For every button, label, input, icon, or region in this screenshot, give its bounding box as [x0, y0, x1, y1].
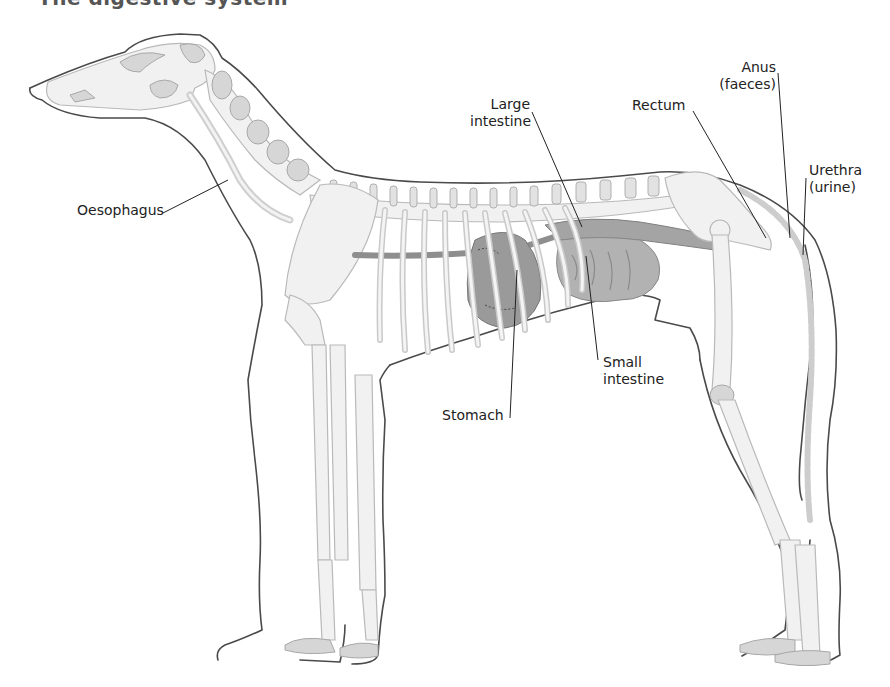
- scapula: [285, 184, 378, 304]
- label-small-intestine: Small intestine: [603, 354, 664, 388]
- label-urethra-line1: Urethra: [809, 162, 862, 179]
- cervical-vertebrae: [205, 70, 320, 195]
- label-large-intestine-line2: intestine: [470, 113, 530, 130]
- leader-oesophagus: [163, 180, 228, 213]
- label-stomach: Stomach: [442, 407, 504, 424]
- label-anus-line2: (faeces): [716, 76, 776, 93]
- leader-anus: [778, 73, 790, 238]
- label-large-intestine: Large intestine: [470, 96, 530, 130]
- label-small-intestine-line1: Small: [603, 354, 664, 371]
- label-urethra-line2: (urine): [809, 179, 862, 196]
- dog-skeleton-illustration: [0, 0, 890, 687]
- label-urethra: Urethra (urine): [809, 162, 862, 196]
- front-legs: [285, 295, 378, 658]
- label-large-intestine-line1: Large: [470, 96, 530, 113]
- label-anus: Anus (faeces): [716, 59, 776, 93]
- stomach-organ: [467, 233, 541, 329]
- organs: [355, 219, 720, 328]
- label-oesophagus: Oesophagus: [77, 202, 164, 219]
- leader-urethra: [803, 178, 806, 255]
- small-intestine-organ: [557, 238, 660, 302]
- label-small-intestine-line2: intestine: [603, 371, 664, 388]
- label-rectum: Rectum: [632, 97, 685, 114]
- label-anus-line1: Anus: [716, 59, 776, 76]
